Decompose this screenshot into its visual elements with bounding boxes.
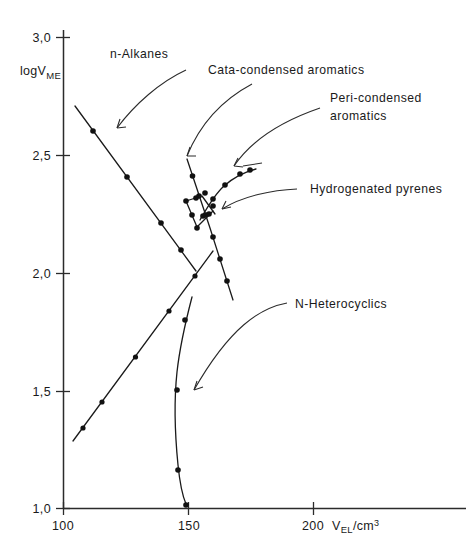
data-point xyxy=(210,234,216,240)
data-point xyxy=(182,317,188,323)
x-ticklabel-150: 150 xyxy=(178,519,200,533)
annotation-cata-condensed: Cata-condensed aromatics xyxy=(208,63,364,77)
data-point xyxy=(175,467,181,473)
x-ticklabel-100: 100 xyxy=(52,519,74,533)
y-axis-tick-labels: 3,0 2,5 2,0 1,5 1,0 xyxy=(32,31,51,516)
y-ticklabel-2.5: 2,5 xyxy=(32,149,51,163)
data-point xyxy=(200,213,206,219)
series-cata-condensed-aromatics xyxy=(187,159,233,300)
y-ticklabel-2.0: 2,0 xyxy=(32,267,51,281)
leader-cata-arrow xyxy=(187,147,196,156)
annotation-peri-condensed-line1: Peri-condensed xyxy=(330,91,422,105)
data-point xyxy=(133,354,138,359)
data-point xyxy=(247,167,253,173)
data-point xyxy=(237,171,243,177)
y-ticklabel-1.5: 1,5 xyxy=(32,385,51,399)
series-hydrogenated-pyrenes xyxy=(183,190,216,231)
x-axis-title: VEL/cm3 xyxy=(332,518,379,535)
leader-cata-condensed xyxy=(187,84,252,156)
data-point xyxy=(210,203,216,209)
data-point xyxy=(158,220,164,226)
data-point xyxy=(80,425,85,430)
data-point xyxy=(224,278,230,284)
annotation-leaders xyxy=(117,70,320,390)
series-n-heterocyclics-line xyxy=(175,297,192,504)
data-point xyxy=(124,174,130,180)
y-ticklabel-1.0: 1,0 xyxy=(32,502,51,516)
series-n-heterocyclics xyxy=(174,297,192,508)
data-point xyxy=(90,128,96,134)
data-point xyxy=(202,190,208,196)
y-axis-title-sub: ME xyxy=(46,70,61,81)
annotation-peri-condensed-line2: aromatics xyxy=(330,109,387,123)
series-n-alkanes xyxy=(73,251,213,441)
data-point xyxy=(217,256,223,262)
series-n-alkanes-line xyxy=(73,251,213,441)
data-point xyxy=(222,182,228,188)
y-axis-title: logVME xyxy=(20,64,61,81)
leader-n-alkanes xyxy=(117,70,186,128)
data-point xyxy=(99,399,104,404)
data-point xyxy=(166,308,171,313)
data-point xyxy=(183,198,189,204)
y-ticklabel-3.0: 3,0 xyxy=(32,31,51,45)
x-axis-title-unit: /cm xyxy=(353,519,374,533)
leader-hydrogenated-pyrenes xyxy=(222,189,297,209)
data-point xyxy=(206,211,212,217)
y-axis-title-prefix: logV xyxy=(20,64,47,78)
data-point xyxy=(210,196,216,202)
chart-figure: 3,0 2,5 2,0 1,5 1,0 100 150 200 VEL/cm3 … xyxy=(0,0,469,555)
x-axis-title-sup: 3 xyxy=(374,518,379,528)
leader-peri-tail xyxy=(243,163,262,166)
data-point xyxy=(189,212,195,218)
x-ticklabel-200: 200 xyxy=(302,519,324,533)
data-point xyxy=(194,225,200,231)
series-n-alkanes-visual xyxy=(75,106,196,271)
x-axis-title-base: V xyxy=(332,519,341,533)
annotation-hydrogenated-pyrenes: Hydrogenated pyrenes xyxy=(310,182,442,196)
annotation-labels: n-Alkanes Cata-condensed aromatics Peri-… xyxy=(110,47,442,311)
x-axis-tick-labels: 100 150 200 xyxy=(52,519,324,533)
scatter-plot-canvas: 3,0 2,5 2,0 1,5 1,0 100 150 200 VEL/cm3 … xyxy=(0,0,469,555)
annotation-n-alkanes: n-Alkanes xyxy=(110,47,168,61)
data-point xyxy=(193,195,199,201)
data-point xyxy=(183,502,189,508)
data-point xyxy=(178,247,184,253)
data-point xyxy=(192,273,197,278)
x-axis-title-sub: EL xyxy=(341,524,353,535)
data-point xyxy=(190,173,196,179)
leader-peri-condensed xyxy=(234,108,320,166)
annotation-n-heterocyclics: N-Heterocyclics xyxy=(295,297,387,311)
leader-n-heterocyclics xyxy=(194,303,287,390)
data-point xyxy=(174,387,180,393)
